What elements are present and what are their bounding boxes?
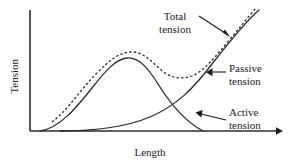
active-tension-label: Active tension <box>229 106 285 131</box>
total-tension-label-line1: Total <box>150 10 200 23</box>
active-tension-label-line2: tension <box>229 119 285 132</box>
total-tension-label: Total tension <box>150 10 200 35</box>
active-tension-curve <box>40 58 203 131</box>
y-axis-label: Tension <box>8 46 21 106</box>
passive-tension-label-line1: Passive <box>229 62 285 75</box>
length-tension-figure: Total tension Passive tension Active ten… <box>0 0 288 168</box>
x-axis-label: Length <box>100 146 200 159</box>
total-tension-label-line2: tension <box>150 23 200 36</box>
active-tension-label-line1: Active <box>229 106 285 119</box>
passive-tension-label: Passive tension <box>229 62 285 87</box>
total-tension-arrow-icon <box>223 30 231 37</box>
active-tension-arrow-icon <box>196 110 203 118</box>
active-tension-leader-line <box>201 114 226 120</box>
passive-tension-label-line2: tension <box>229 75 285 88</box>
